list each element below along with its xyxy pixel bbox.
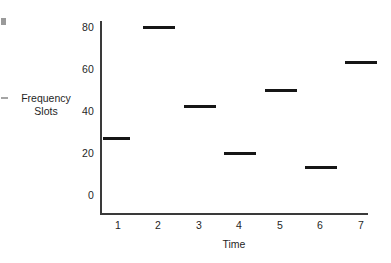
x-tick-label-2: 2 — [147, 220, 169, 231]
y-tick-label-60: 60 — [0, 64, 94, 75]
chart-figure: Frequency Slots 80 60 40 20 0 1 2 3 4 5 … — [0, 0, 391, 263]
data-bar-6 — [305, 166, 337, 169]
data-bar-1 — [103, 137, 130, 140]
y-tick-label-80: 80 — [0, 22, 94, 33]
y-tick-label-0: 0 — [0, 190, 94, 201]
y-tick-label-20: 20 — [0, 148, 94, 159]
x-tick-label-4: 4 — [228, 220, 250, 231]
x-tick-label-3: 3 — [188, 220, 210, 231]
data-bar-4 — [224, 152, 256, 155]
x-tick-label-5: 5 — [269, 220, 291, 231]
data-bar-3 — [184, 105, 216, 108]
data-bar-2 — [143, 26, 175, 29]
x-axis-line — [100, 213, 368, 215]
y-axis-ticks: 80 60 40 20 0 — [0, 0, 94, 263]
x-axis-title: Time — [100, 238, 368, 250]
x-tick-label-7: 7 — [350, 220, 372, 231]
x-tick-label-6: 6 — [309, 220, 331, 231]
y-tick-label-40: 40 — [0, 106, 94, 117]
data-bar-5 — [265, 89, 297, 92]
data-bar-7 — [345, 61, 377, 64]
x-tick-label-1: 1 — [107, 220, 129, 231]
y-axis-line — [100, 21, 102, 215]
